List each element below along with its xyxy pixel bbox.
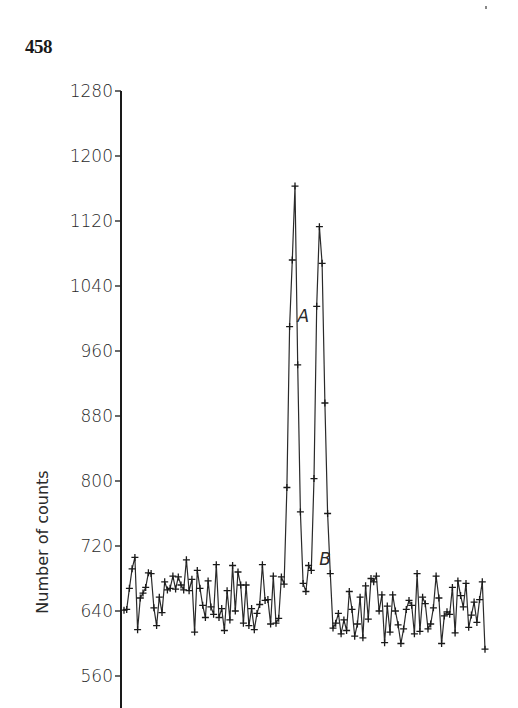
y-tick-label: 800: [81, 471, 113, 491]
data-point-marker: [159, 609, 166, 616]
y-tick-label: 880: [81, 406, 113, 426]
data-point-marker: [224, 587, 231, 594]
data-point-marker: [150, 604, 157, 611]
data-point-marker: [161, 578, 168, 585]
data-point-marker: [216, 614, 223, 621]
data-point-marker: [397, 640, 404, 647]
y-tick-label: 1200: [70, 146, 113, 166]
data-point-marker: [186, 587, 193, 594]
data-point-marker: [235, 569, 242, 576]
y-tick-label: 960: [81, 341, 113, 361]
data-point-marker: [357, 594, 364, 601]
data-point-marker: [256, 601, 263, 608]
data-point-marker: [169, 573, 176, 580]
data-point-marker: [283, 484, 290, 491]
data-point-marker: [419, 594, 426, 601]
data-point-marker: [199, 602, 206, 609]
data-point-marker: [300, 580, 307, 587]
data-point-marker: [172, 586, 179, 593]
data-point-marker: [156, 594, 163, 601]
data-point-marker: [395, 621, 402, 628]
data-point-marker: [297, 508, 304, 515]
y-tick-label: 1120: [70, 211, 113, 231]
data-point-marker: [389, 591, 396, 598]
data-point-marker: [454, 577, 461, 584]
data-point-marker: [243, 582, 250, 589]
data-point-marker: [286, 323, 293, 330]
y-tick-label: 640: [81, 601, 113, 621]
data-point-marker: [316, 223, 323, 230]
data-point-marker: [270, 573, 277, 580]
data-point-marker: [254, 610, 261, 617]
y-tick-label: 720: [81, 536, 113, 556]
data-point-markers: [121, 183, 489, 653]
data-point-marker: [229, 562, 236, 569]
data-point-marker: [175, 573, 182, 580]
data-point-marker: [338, 630, 345, 637]
data-point-marker: [387, 629, 394, 636]
data-point-marker: [479, 578, 486, 585]
data-point-marker: [482, 646, 489, 653]
data-point-marker: [362, 582, 369, 589]
data-point-marker: [392, 608, 399, 615]
y-axis-title-text: Number of counts: [33, 470, 52, 613]
data-point-marker: [468, 612, 475, 619]
data-point-marker: [430, 604, 437, 611]
data-point-marker: [294, 361, 301, 368]
counts-chart: 5606407208008809601040112012001280 Numbe…: [0, 0, 518, 708]
data-point-marker: [378, 591, 385, 598]
data-point-marker: [349, 606, 356, 613]
data-point-marker: [134, 626, 141, 633]
data-point-marker: [259, 561, 266, 568]
data-point-marker: [400, 625, 407, 632]
data-point-marker: [289, 257, 296, 264]
data-point-marker: [183, 556, 190, 563]
data-point-marker: [321, 400, 328, 407]
peak-label-a: A: [297, 306, 310, 326]
data-point-marker: [202, 614, 209, 621]
data-point-marker: [311, 475, 318, 482]
data-point-marker: [433, 573, 440, 580]
data-point-marker: [465, 624, 472, 631]
data-point-marker: [354, 621, 361, 628]
data-point-marker: [292, 183, 299, 190]
data-point-marker: [449, 584, 456, 591]
peak-label-b: B: [319, 549, 331, 569]
data-point-marker: [463, 580, 470, 587]
data-point-marker: [414, 570, 421, 577]
data-point-marker: [340, 616, 347, 623]
data-point-marker: [197, 585, 204, 592]
data-point-marker: [457, 592, 464, 599]
y-axis: 5606407208008809601040112012001280: [70, 81, 121, 708]
data-point-marker: [226, 616, 233, 623]
data-point-marker: [359, 634, 366, 641]
data-point-marker: [131, 554, 138, 561]
data-point-marker: [319, 260, 326, 267]
y-tick-label: 1280: [70, 81, 113, 101]
data-point-marker: [213, 561, 220, 568]
y-tick-label: 560: [81, 666, 113, 686]
data-point-marker: [403, 606, 410, 613]
data-point-marker: [473, 619, 480, 626]
data-point-marker: [384, 603, 391, 610]
data-point-marker: [267, 621, 274, 628]
data-point-marker: [191, 629, 198, 636]
data-point-marker: [248, 605, 255, 612]
data-point-marker: [381, 639, 388, 646]
data-point-marker: [153, 622, 160, 629]
y-axis-title: Number of counts: [33, 470, 52, 613]
data-point-marker: [460, 603, 467, 610]
data-point-marker: [452, 629, 459, 636]
data-point-marker: [376, 608, 383, 615]
y-tick-label: 1040: [70, 276, 113, 296]
data-point-marker: [194, 567, 201, 574]
data-point-marker: [335, 610, 342, 617]
data-point-marker: [343, 627, 350, 634]
data-point-marker: [313, 303, 320, 310]
data-point-marker: [435, 595, 442, 602]
data-point-marker: [221, 627, 228, 634]
data-point-marker: [365, 616, 372, 623]
data-point-marker: [327, 570, 334, 577]
data-point-marker: [251, 626, 258, 633]
data-point-marker: [346, 588, 353, 595]
